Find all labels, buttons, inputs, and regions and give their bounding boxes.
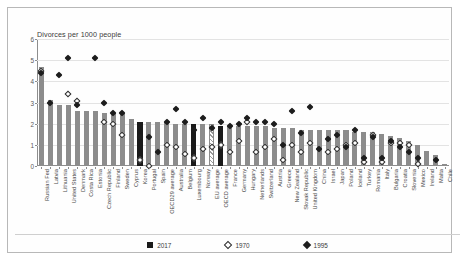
x-tick-mark <box>274 167 275 169</box>
x-axis-label: Croatia <box>402 169 408 187</box>
legend-label: 1970 <box>235 242 249 249</box>
gridline <box>37 60 449 61</box>
chart-title: Divorces per 1000 people <box>37 30 121 39</box>
x-tick-mark <box>382 167 383 169</box>
x-axis-label: Bulgaria <box>393 169 399 190</box>
bar <box>155 122 160 166</box>
filled-diamond-icon <box>302 241 310 249</box>
bar <box>48 100 53 166</box>
bar <box>245 126 250 166</box>
plot-area: 0123456 <box>37 39 449 166</box>
y-tick-label: 0 <box>30 163 34 170</box>
x-tick-mark <box>203 167 204 169</box>
x-axis-label: United States <box>71 169 77 203</box>
bar <box>129 119 134 166</box>
x-axis-label: New Zealand <box>294 169 300 203</box>
x-tick-mark <box>149 167 150 169</box>
y-tick-mark <box>35 124 37 125</box>
bar <box>272 128 277 166</box>
x-tick-mark <box>167 167 168 169</box>
x-tick-mark <box>391 167 392 169</box>
x-tick-mark <box>113 167 114 169</box>
x-axis-label: France <box>232 169 238 187</box>
x-tick-mark <box>59 167 60 169</box>
x-axis <box>37 165 449 166</box>
x-tick-mark <box>409 167 410 169</box>
data-point-1995 <box>307 104 314 111</box>
x-tick-mark <box>176 167 177 169</box>
y-tick-label: 5 <box>30 57 34 64</box>
x-axis-label: Germany <box>241 169 247 192</box>
x-tick-mark <box>68 167 69 169</box>
x-axis-label: Finland <box>115 169 121 188</box>
x-axis-label: Ireland <box>429 169 435 186</box>
x-tick-mark <box>41 167 42 169</box>
x-axis-label: Netherlands <box>259 169 265 200</box>
y-tick-mark <box>35 39 37 40</box>
y-tick-mark <box>35 145 37 146</box>
y-tick-label: 2 <box>30 120 34 127</box>
x-axis-label: Slovak Republic <box>303 169 309 210</box>
bar <box>39 67 44 166</box>
x-axis-label: Luxembourg <box>196 169 202 201</box>
x-tick-mark <box>230 167 231 169</box>
data-point-1970 <box>65 91 72 98</box>
gridline <box>37 39 449 40</box>
x-axis-label: Greece <box>286 169 292 188</box>
x-tick-mark <box>50 167 51 169</box>
x-axis-label: Romania <box>375 169 381 192</box>
x-tick-mark <box>319 167 320 169</box>
x-tick-mark <box>337 167 338 169</box>
x-axis-label: Estonia <box>97 169 103 188</box>
legend-item-1995[interactable]: 1995 <box>304 242 328 249</box>
bar <box>75 111 80 166</box>
x-tick-mark <box>355 167 356 169</box>
x-tick-mark <box>265 167 266 169</box>
bar <box>120 113 125 166</box>
y-tick-label: 1 <box>30 141 34 148</box>
x-tick-mark <box>194 167 195 169</box>
bar <box>146 122 151 166</box>
x-axis-label: Lithuania <box>62 169 68 192</box>
filled-square-icon <box>147 242 153 248</box>
x-axis-label: Chile <box>447 169 453 182</box>
x-axis-label: Austria <box>277 169 283 187</box>
x-tick-mark <box>247 167 248 169</box>
x-axis-label: Latvia <box>53 169 59 184</box>
bar <box>442 164 447 166</box>
x-axis-label: Australia <box>178 169 184 191</box>
data-point-1995 <box>289 108 296 115</box>
x-tick-mark <box>427 167 428 169</box>
x-axis-label: Switzerland <box>268 169 274 198</box>
x-axis-label: Japan <box>339 169 345 185</box>
x-tick-mark <box>158 167 159 169</box>
x-axis-label: Iceland <box>357 169 363 187</box>
x-tick-mark <box>328 167 329 169</box>
x-axis-label: Cyprus <box>133 169 139 187</box>
bar <box>84 111 89 166</box>
chart-frame: Divorces per 1000 people 0123456 Russian… <box>7 7 452 253</box>
x-tick-mark <box>122 167 123 169</box>
y-tick-mark <box>35 60 37 61</box>
x-axis-label: Hungary <box>250 169 256 191</box>
data-point-1995 <box>101 99 108 106</box>
x-tick-mark <box>256 167 257 169</box>
bar <box>227 126 232 166</box>
x-axis-label: Belgium <box>187 169 193 190</box>
x-axis-label: Mexico <box>420 169 426 187</box>
x-tick-mark <box>283 167 284 169</box>
x-axis-label: Portugal <box>151 169 157 190</box>
open-diamond-icon <box>224 241 232 249</box>
gridline <box>37 124 449 125</box>
bar <box>308 130 313 166</box>
legend-item-2017[interactable]: 2017 <box>147 242 171 249</box>
x-axis-label: Russian Fed <box>44 169 50 201</box>
x-axis-label: Norway <box>205 169 211 188</box>
y-tick-mark <box>35 81 37 82</box>
data-point-1995 <box>56 72 63 79</box>
x-tick-mark <box>436 167 437 169</box>
x-axis-label: Costa Rica <box>88 169 94 197</box>
x-axis-label: Denmark <box>80 169 86 192</box>
legend-item-1970[interactable]: 1970 <box>225 242 249 249</box>
y-tick-label: 4 <box>30 78 34 85</box>
